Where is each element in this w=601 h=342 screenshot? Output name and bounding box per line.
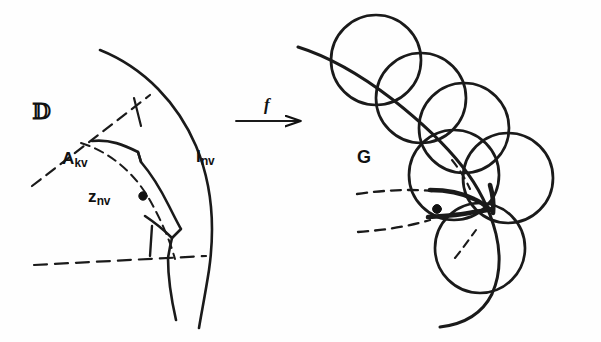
marked-point-znv	[139, 192, 147, 200]
image-ray-lower	[358, 220, 430, 232]
math-diagram-figure: 𝔻 Akv znv Inv f G	[0, 0, 601, 342]
label-point-znv-base: z	[88, 187, 97, 206]
domain-sector-group	[32, 50, 212, 328]
label-cell-akv-subscript: kv	[75, 156, 88, 170]
cell-edge-lower	[168, 238, 176, 320]
label-region-g: G	[357, 148, 371, 166]
diagram-canvas	[0, 0, 601, 342]
label-point-znv-subscript: nv	[97, 194, 110, 208]
image-ray-upper	[357, 190, 432, 194]
label-point-znv: znv	[88, 188, 110, 205]
disk-boundary-arc	[100, 50, 212, 328]
label-interval-inv-subscript: nv	[201, 154, 214, 168]
label-interval-inv: Inv	[196, 148, 214, 165]
image-inner-arc-lower	[455, 230, 476, 258]
image-region-group	[298, 15, 553, 327]
label-cell-akv-base: A	[62, 149, 74, 168]
label-map-f: f	[264, 96, 270, 113]
cell-base-tick	[150, 226, 152, 256]
label-cell-akv: Akv	[62, 150, 87, 167]
sector-ray-lower	[34, 256, 206, 265]
cell-akv-edge-right	[138, 152, 141, 162]
marked-point-image	[433, 205, 442, 214]
label-domain-D: 𝔻	[32, 100, 50, 122]
